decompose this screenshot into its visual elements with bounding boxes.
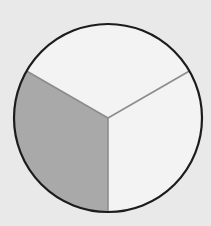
fraction-circle-diagram: [0, 0, 211, 226]
